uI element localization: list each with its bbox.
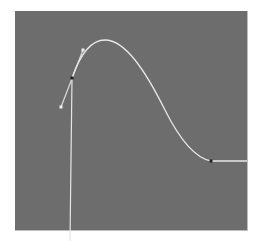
keyframe-end[interactable]: [210, 160, 213, 163]
animation-curve[interactable]: [72, 40, 247, 161]
time-marker-line[interactable]: [70, 78, 72, 241]
tangent-handle-upper[interactable]: [82, 49, 85, 52]
tangent-handle-lower[interactable]: [60, 106, 63, 109]
keyframe-start[interactable]: [71, 77, 74, 80]
animation-curve-canvas[interactable]: [0, 0, 257, 241]
